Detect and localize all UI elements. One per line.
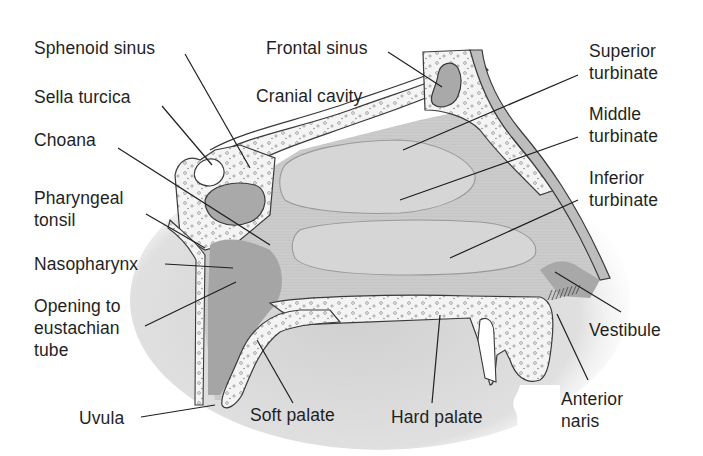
- label-eustachian-line1: Opening to: [34, 296, 121, 317]
- label-uvula: Uvula: [79, 408, 124, 429]
- label-vestibule: Vestibule: [589, 320, 661, 341]
- label-anterior-naris-line1: Anterior: [561, 389, 623, 410]
- label-superior-turbinate-line2: turbinate: [589, 63, 658, 84]
- label-nasopharynx: Nasopharynx: [34, 254, 138, 275]
- upper-lip-gap: [513, 385, 560, 440]
- label-choana: Choana: [34, 130, 96, 151]
- inferior-turbinate-shape: [292, 220, 535, 275]
- label-anterior-naris-line2: naris: [561, 411, 599, 432]
- label-frontal-sinus: Frontal sinus: [266, 38, 367, 59]
- label-sphenoid-sinus: Sphenoid sinus: [34, 38, 155, 59]
- label-inferior-turbinate-line1: Inferior: [589, 168, 644, 189]
- label-inferior-turbinate-line2: turbinate: [589, 190, 658, 211]
- nasal-cavity-diagram: Sphenoid sinus Frontal sinus Sella turci…: [0, 0, 703, 456]
- label-eustachian-line2: eustachian: [34, 318, 120, 339]
- label-soft-palate: Soft palate: [250, 405, 335, 426]
- label-eustachian-line3: tube: [34, 340, 68, 361]
- leader-uvula: [141, 405, 215, 417]
- label-superior-turbinate-line1: Superior: [589, 41, 656, 62]
- label-middle-turbinate-line2: turbinate: [589, 126, 658, 147]
- leader-sella-turcica: [162, 106, 212, 165]
- label-hard-palate: Hard palate: [391, 407, 483, 428]
- label-sella-turcica: Sella turcica: [34, 87, 131, 108]
- label-pharyngeal-tonsil-line2: tonsil: [34, 210, 75, 231]
- label-cranial-cavity: Cranial cavity: [256, 86, 362, 107]
- label-middle-turbinate-line1: Middle: [589, 104, 641, 125]
- label-pharyngeal-tonsil-line1: Pharyngeal: [34, 188, 124, 209]
